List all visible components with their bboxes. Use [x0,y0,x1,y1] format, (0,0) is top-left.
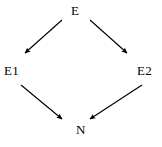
node-label-e: E [71,4,79,18]
node-label-n: N [76,123,86,137]
edge-e2-to-n [90,85,142,119]
edge-e-to-e1 [25,20,62,53]
diagram-canvas: E E1 E2 N [0,0,162,147]
edge-e-to-e2 [90,20,127,53]
node-label-e2: E2 [137,64,152,78]
node-label-e1: E1 [4,64,19,78]
edge-e1-to-n [21,85,62,119]
